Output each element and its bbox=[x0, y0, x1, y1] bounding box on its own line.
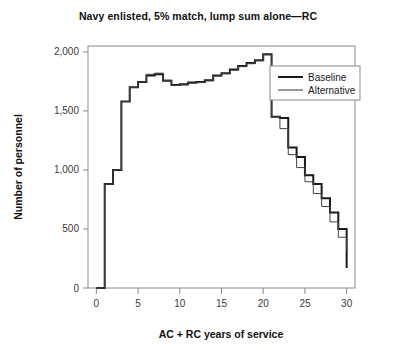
chart-figure: Navy enlisted, 5% match, lump sum alone—… bbox=[0, 0, 396, 350]
x-tick-label: 5 bbox=[135, 298, 141, 309]
x-axis-ticks: 051015202530 bbox=[94, 288, 353, 309]
legend-label-baseline: Baseline bbox=[308, 72, 347, 83]
legend-label-alternative: Alternative bbox=[308, 85, 356, 96]
x-tick-label: 25 bbox=[299, 298, 311, 309]
x-tick-label: 10 bbox=[174, 298, 186, 309]
y-tick-label: 1,500 bbox=[54, 105, 79, 116]
y-tick-label: 500 bbox=[62, 223, 79, 234]
y-tick-label: 1,000 bbox=[54, 164, 79, 175]
chart-legend: Baseline Alternative bbox=[270, 66, 360, 100]
x-tick-label: 0 bbox=[94, 298, 100, 309]
x-axis-title: AC + RC years of service bbox=[159, 328, 284, 340]
x-tick-label: 15 bbox=[216, 298, 228, 309]
y-tick-label: 0 bbox=[73, 283, 79, 294]
chart-canvas: 05001,0001,5002,000 051015202530 Number … bbox=[0, 0, 396, 350]
y-axis-ticks: 05001,0001,5002,000 bbox=[54, 46, 88, 293]
x-tick-label: 20 bbox=[258, 298, 270, 309]
x-tick-label: 30 bbox=[341, 298, 353, 309]
y-tick-label: 2,000 bbox=[54, 46, 79, 57]
y-axis-title: Number of personnel bbox=[12, 114, 24, 220]
